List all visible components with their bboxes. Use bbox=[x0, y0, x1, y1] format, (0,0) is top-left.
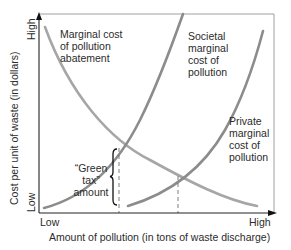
societal-label-line: Societal bbox=[188, 30, 228, 42]
private-label-line: pollution bbox=[229, 151, 269, 163]
abatement-label-line: Marginal cost bbox=[60, 28, 122, 40]
abatement-label: Marginal cost of pollution abatement bbox=[60, 28, 122, 64]
abatement-label-line: of pollution bbox=[60, 40, 122, 52]
y-tick-low: Low bbox=[25, 193, 37, 212]
societal-label: Societal marginal cost of pollution bbox=[188, 30, 228, 78]
societal-label-line: marginal bbox=[188, 42, 228, 54]
private-label-line: cost of bbox=[229, 139, 269, 151]
private-label: Private marginal cost of pollution bbox=[229, 115, 269, 163]
societal-label-line: cost of bbox=[188, 54, 228, 66]
abatement-label-line: abatement bbox=[60, 52, 122, 64]
green-tax-label: “Green tax” amount bbox=[66, 162, 116, 198]
societal-label-line: pollution bbox=[188, 66, 228, 78]
y-tick-high: High bbox=[25, 18, 37, 40]
private-label-line: Private bbox=[229, 115, 269, 127]
private-label-line: marginal bbox=[229, 127, 269, 139]
x-axis-title: Amount of pollution (in tons of waste di… bbox=[49, 231, 270, 243]
green-tax-label-line: “Green tax” bbox=[66, 162, 116, 186]
x-tick-high: High bbox=[249, 216, 271, 228]
green-tax-label-line: amount bbox=[66, 186, 116, 198]
x-tick-low: Low bbox=[40, 216, 59, 228]
y-axis-title: Cost per unit of waste (in dollars) bbox=[8, 52, 20, 205]
